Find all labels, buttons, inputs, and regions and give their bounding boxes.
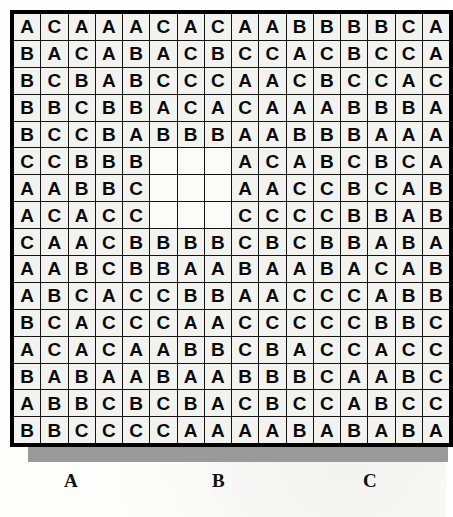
grid-cell[interactable]: B [123,148,150,175]
grid-cell[interactable]: A [41,175,68,202]
grid-cell[interactable]: B [68,148,95,175]
grid-cell[interactable]: A [41,40,68,67]
grid-cell[interactable]: A [95,363,122,390]
grid-cell-empty[interactable] [204,148,231,175]
grid-cell[interactable]: B [341,12,368,40]
grid-cell[interactable]: C [41,148,68,175]
grid-cell[interactable]: C [12,148,41,175]
grid-cell[interactable]: B [341,417,368,445]
grid-cell[interactable]: B [422,256,451,283]
grid-cell[interactable]: B [204,229,231,256]
grid-cell[interactable]: B [177,390,204,417]
grid-cell[interactable]: C [232,94,259,121]
grid-cell[interactable]: B [123,256,150,283]
grid-cell[interactable]: B [41,94,68,121]
grid-cell[interactable]: A [259,94,286,121]
grid-cell[interactable]: C [95,417,122,445]
grid-cell[interactable]: C [313,336,340,363]
grid-cell[interactable]: B [232,256,259,283]
grid-cell[interactable]: B [68,256,95,283]
grid-cell[interactable]: A [232,282,259,309]
grid-cell[interactable]: A [341,390,368,417]
grid-cell[interactable]: C [368,256,395,283]
grid-cell[interactable]: B [422,175,451,202]
grid-cell[interactable]: C [368,40,395,67]
grid-cell[interactable]: A [286,336,313,363]
grid-cell[interactable]: B [68,175,95,202]
grid-cell[interactable]: A [123,336,150,363]
grid-cell[interactable]: B [204,40,231,67]
grid-cell[interactable]: B [123,390,150,417]
grid-cell[interactable]: C [286,202,313,229]
grid-cell[interactable]: A [232,121,259,148]
grid-cell[interactable]: C [123,282,150,309]
grid-cell[interactable]: C [232,390,259,417]
grid-cell[interactable]: C [204,12,231,40]
grid-cell[interactable]: A [395,202,422,229]
grid-cell[interactable]: C [150,390,177,417]
grid-cell[interactable]: C [286,175,313,202]
grid-cell[interactable]: B [313,67,340,94]
grid-cell[interactable]: B [204,121,231,148]
grid-cell[interactable]: C [123,202,150,229]
grid-cell[interactable]: B [232,363,259,390]
grid-cell[interactable]: B [12,309,41,336]
grid-cell[interactable]: B [368,12,395,40]
grid-cell[interactable]: B [68,363,95,390]
grid-cell[interactable]: A [12,282,41,309]
grid-cell[interactable]: A [422,417,451,445]
grid-cell[interactable]: C [232,336,259,363]
grid-cell[interactable]: C [259,40,286,67]
grid-cell[interactable]: B [12,417,41,445]
grid-cell[interactable]: A [177,363,204,390]
grid-cell[interactable]: C [313,309,340,336]
grid-cell[interactable]: A [68,202,95,229]
grid-cell[interactable]: C [177,94,204,121]
grid-cell[interactable]: A [422,12,451,40]
grid-cell[interactable]: A [204,417,231,445]
grid-cell[interactable]: A [232,417,259,445]
grid-cell[interactable]: A [259,121,286,148]
grid-cell[interactable]: B [259,336,286,363]
grid-cell[interactable]: A [259,256,286,283]
grid-cell[interactable]: C [286,229,313,256]
grid-cell[interactable]: B [368,148,395,175]
grid-cell[interactable]: B [123,40,150,67]
grid-cell[interactable]: C [68,417,95,445]
grid-cell[interactable]: B [177,121,204,148]
grid-cell[interactable]: B [313,229,340,256]
grid-cell[interactable]: A [68,309,95,336]
grid-cell[interactable]: B [41,282,68,309]
grid-cell[interactable]: A [204,309,231,336]
grid-cell[interactable]: A [150,40,177,67]
grid-cell[interactable]: A [368,282,395,309]
grid-cell[interactable]: B [177,282,204,309]
grid-cell[interactable]: B [422,202,451,229]
grid-cell[interactable]: C [12,229,41,256]
grid-cell[interactable]: B [177,336,204,363]
grid-cell[interactable]: B [95,175,122,202]
grid-cell-empty[interactable] [204,202,231,229]
grid-cell[interactable]: B [12,363,41,390]
grid-cell[interactable]: A [232,12,259,40]
grid-cell-empty[interactable] [150,148,177,175]
grid-cell[interactable]: A [95,67,122,94]
grid-cell[interactable]: C [123,175,150,202]
grid-cell[interactable]: C [259,148,286,175]
grid-cell[interactable]: A [12,202,41,229]
grid-cell[interactable]: C [204,67,231,94]
grid-cell[interactable]: A [150,336,177,363]
grid-cell[interactable]: B [422,282,451,309]
grid-cell[interactable]: C [150,67,177,94]
grid-cell[interactable]: C [259,309,286,336]
grid-cell[interactable]: B [95,94,122,121]
grid-cell[interactable]: B [395,282,422,309]
grid-cell[interactable]: C [68,94,95,121]
grid-cell[interactable]: B [204,282,231,309]
grid-cell[interactable]: A [395,256,422,283]
grid-cell[interactable]: C [95,309,122,336]
grid-cell[interactable]: A [177,309,204,336]
grid-cell[interactable]: B [12,94,41,121]
grid-cell[interactable]: A [286,94,313,121]
grid-cell[interactable]: B [150,256,177,283]
